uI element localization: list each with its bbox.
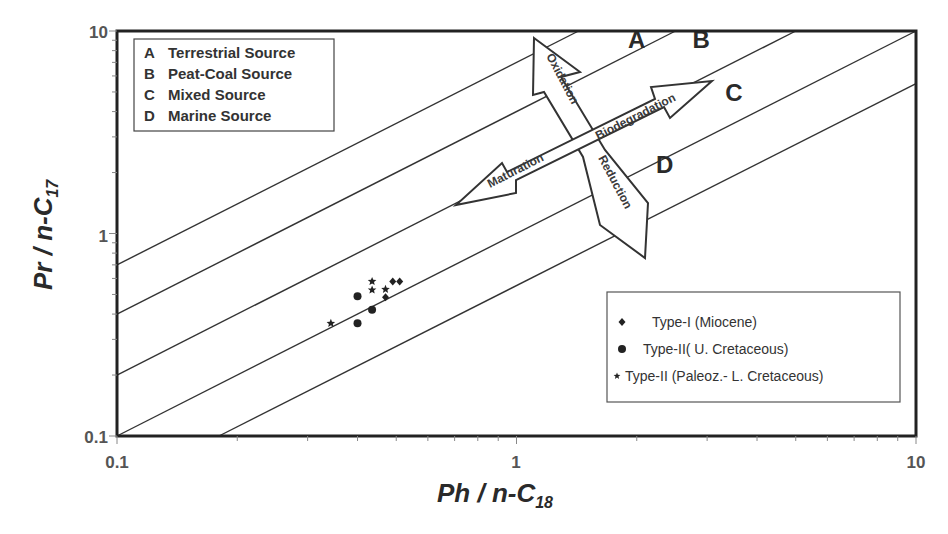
chart-canvas: Oxidation Reduction Biodegradation Matur…	[0, 0, 948, 534]
x-tick-1: 1	[511, 453, 520, 472]
zone-label-d: D	[656, 151, 673, 178]
legend-label-source: Peat-Coal Source	[168, 65, 292, 82]
arrow-label-biodegradation: Biodegradation	[593, 90, 678, 142]
y-tick-0.1: 0.1	[84, 428, 108, 447]
legend-key-c: C	[144, 86, 155, 103]
legend-key-b: B	[144, 65, 155, 82]
legend-label-source: Mixed Source	[168, 86, 266, 103]
legend-label-source: Terrestrial Source	[168, 44, 295, 61]
marker-circle	[618, 345, 626, 353]
y-tick-10: 10	[89, 23, 108, 42]
legend-label-source: Marine Source	[168, 107, 271, 124]
y-axis-title: Pr / n-C17	[28, 179, 61, 290]
legend-key-a: A	[144, 44, 155, 61]
data-points	[327, 277, 404, 327]
x-tick-0.1: 0.1	[105, 453, 129, 472]
marker-circle	[368, 306, 376, 314]
legend-label-series: Type-II( U. Cretaceous)	[643, 341, 789, 357]
source-legend: ATerrestrial SourceBPeat-Coal SourceCMix…	[134, 39, 334, 131]
marker-diamond	[382, 293, 389, 301]
marker-diamond	[389, 277, 396, 285]
legend-key-d: D	[144, 107, 155, 124]
marker-circle	[354, 292, 362, 300]
series-legend: Type-I (Miocene)Type-II( U. Cretaceous)T…	[607, 292, 900, 402]
marker-star	[368, 286, 377, 294]
oxidation-reduction-arrow	[533, 38, 648, 258]
y-tick-1: 1	[99, 227, 108, 246]
marker-star	[381, 285, 390, 293]
process-arrows: Oxidation Reduction Biodegradation Matur…	[456, 38, 712, 258]
marker-circle	[354, 319, 362, 327]
legend-label-series: Type-II (Paleoz.- L. Cretaceous)	[625, 368, 823, 384]
marker-diamond	[396, 277, 403, 285]
legend-label-series: Type-I (Miocene)	[652, 314, 757, 330]
marker-star	[368, 277, 377, 285]
zone-label-c: C	[725, 79, 742, 106]
x-tick-10: 10	[907, 453, 926, 472]
x-axis-title: Ph / n-C18	[437, 478, 553, 511]
